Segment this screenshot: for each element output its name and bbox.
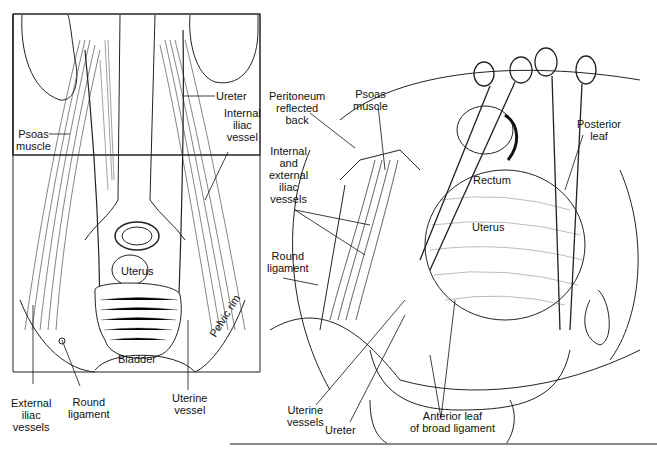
label-ureter-left: Ureter xyxy=(216,90,247,102)
label-uterus-left: Uterus xyxy=(121,265,153,277)
label-psoas-muscle-left: Psoas muscle xyxy=(16,128,51,152)
left-panel-illustration xyxy=(0,0,265,451)
label-uterine-vessels: Uterine vessels xyxy=(287,404,324,428)
label-peritoneum-reflected-back: Peritoneum reflected back xyxy=(269,90,325,126)
label-uterus-right: Uterus xyxy=(472,221,504,233)
label-internal-external-iliac-vessels: Internal and external iliac vessels xyxy=(269,145,308,205)
label-external-iliac-vessels: External iliac vessels xyxy=(11,397,51,433)
right-panel-illustration xyxy=(265,0,657,451)
label-rectum: Rectum xyxy=(473,174,511,186)
left-panel-anatomy-view: Ureter Internal iliac vessel Psoas muscl… xyxy=(0,0,265,451)
label-anterior-leaf-broad-ligament: Anterior leaf of broad ligament xyxy=(410,410,495,434)
label-bladder: Bladder xyxy=(118,353,156,365)
label-psoas-muscle-right: Psoas muscle xyxy=(353,88,388,112)
label-uterine-vessel: Uterine vessel xyxy=(172,392,207,416)
label-round-ligament-right: Round ligament xyxy=(267,250,309,274)
right-panel-surgical-view: Peritoneum reflected back Psoas muscle I… xyxy=(265,0,657,451)
label-ureter-right: Ureter xyxy=(325,424,356,436)
bottom-rule xyxy=(230,443,657,445)
label-posterior-leaf: Posterior leaf xyxy=(577,118,621,142)
label-round-ligament-left: Round ligament xyxy=(68,396,110,420)
label-internal-iliac-vessel: Internal iliac vessel xyxy=(224,107,261,143)
